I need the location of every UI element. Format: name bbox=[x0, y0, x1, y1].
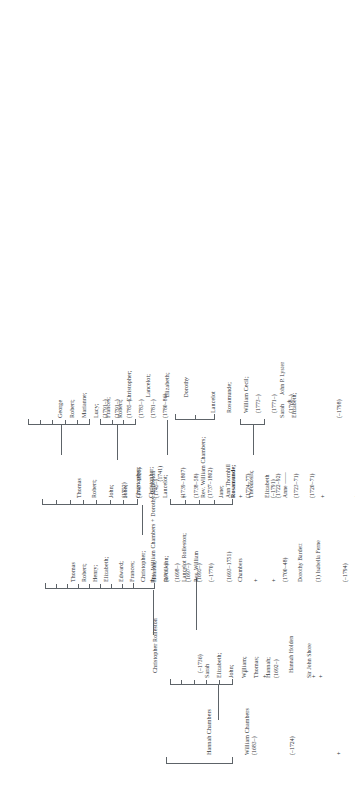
marriage-rule-john-chambers bbox=[196, 578, 197, 630]
marriage-plus: + bbox=[261, 643, 268, 678]
cap-gen5-c-top bbox=[175, 414, 176, 420]
marriage-rule-rev-john-rolleston bbox=[142, 505, 143, 535]
tick-gen4-3 bbox=[83, 500, 84, 505]
cap-gen5-a-top bbox=[100, 419, 101, 425]
tick-gen5-a-2 bbox=[123, 420, 124, 425]
cap-gen5-c-bottom bbox=[214, 414, 215, 420]
cap-gen4-top bbox=[42, 499, 43, 505]
tick-rolleston-gen3-6 bbox=[111, 584, 112, 589]
sibling-cap-rolleston-gen2-b bbox=[154, 583, 155, 589]
person-thomas-1752: Thomas (1752) bbox=[38, 478, 165, 498]
tick-rolleston-gen3-3 bbox=[78, 584, 79, 589]
sibling-spine-gen5-d bbox=[240, 424, 265, 425]
spouse-john-p-lyster-name: John P. Lyster bbox=[241, 362, 323, 395]
marriage-plus: + bbox=[335, 707, 342, 755]
sibling-spine-gen5-b bbox=[28, 424, 90, 425]
tick-rolleston-gen3-2 bbox=[67, 584, 68, 589]
person-hannah-chambers: Hannah Chambers (1683–) bbox=[168, 709, 295, 755]
tick-gen5-a-1 bbox=[112, 420, 113, 425]
cap-gen5-a-bottom bbox=[135, 419, 136, 425]
bracket-vertical-gen1 bbox=[166, 763, 233, 764]
tick-rolleston-gen3-7 bbox=[122, 584, 123, 589]
cap-chambers-gen3-bottom bbox=[232, 499, 233, 505]
sibling-cap-rolleston-gen2 bbox=[133, 583, 134, 589]
tick-gen5-b-1 bbox=[40, 420, 41, 425]
person-sarah-chambers: Sarah bbox=[166, 662, 249, 678]
cap-gen4-bottom bbox=[137, 499, 138, 505]
sibling-tick-chambers-4 bbox=[219, 680, 220, 685]
tick-gen4-5 bbox=[110, 500, 111, 505]
genealogy-chart-canvas: William Chambers (–1724) + (1) Margaret … bbox=[0, 0, 355, 785]
tick-gen5-c-1 bbox=[195, 415, 196, 420]
tick-gen4-1 bbox=[56, 500, 57, 505]
tick-rolleston-gen3-4 bbox=[89, 584, 90, 589]
bracket-tick-gen1-a bbox=[166, 757, 167, 764]
marriage-plus: + bbox=[180, 464, 187, 498]
tick-chambers-gen3-3 bbox=[214, 500, 215, 505]
person-george-1791: George (1791–) bbox=[19, 399, 146, 418]
bracket-tick-gen1-b bbox=[232, 757, 233, 764]
marriage-rule-elizabeth-kant bbox=[253, 425, 254, 455]
marriage-rule-rev-william-1724 bbox=[167, 420, 168, 455]
marriage-rule-chambers bbox=[218, 685, 219, 720]
tick-rolleston-gen3-1 bbox=[56, 584, 57, 589]
tick-rolleston-gen3-5 bbox=[100, 584, 101, 589]
cap-gen5-d-bottom bbox=[264, 419, 265, 425]
cap-rolleston-gen3-top bbox=[45, 583, 46, 589]
rotated-chart-wrapper: William Chambers (–1724) + (1) Margaret … bbox=[0, 0, 355, 785]
sibling-spine-gen5-a bbox=[100, 424, 136, 425]
tick-gen4-2 bbox=[70, 500, 71, 505]
marriage-rule-robert-thornhill bbox=[61, 425, 62, 455]
sibling-tick-chambers-1 bbox=[181, 680, 182, 685]
person-sarah-lyster: Sarah bbox=[241, 402, 324, 418]
sibling-tick-chambers-3 bbox=[206, 680, 207, 685]
sibling-cap-top-chambers-gen2 bbox=[170, 679, 171, 685]
sibling-spine-rolleston-gen2 bbox=[133, 588, 155, 589]
tick-gen5-b-4 bbox=[77, 420, 78, 425]
cap-gen5-b-top bbox=[28, 419, 29, 425]
sibling-cap-bottom-chambers-gen2 bbox=[232, 679, 233, 685]
marriage-rule-rolleston bbox=[153, 590, 154, 635]
tick-gen4-6 bbox=[123, 500, 124, 505]
cap-gen5-b-bottom bbox=[89, 419, 90, 425]
sibling-spine-chambers-gen2 bbox=[170, 684, 233, 685]
tick-gen5-b-2 bbox=[52, 420, 53, 425]
sibling-tick-chambers-2 bbox=[194, 680, 195, 685]
person-thomas-rolleston: Thomas bbox=[32, 562, 115, 582]
tick-gen5-b-3 bbox=[65, 420, 66, 425]
cap-gen5-d-top bbox=[240, 419, 241, 425]
marriage-rule-christopher-anne bbox=[117, 425, 118, 460]
tick-gen4-4 bbox=[96, 500, 97, 505]
